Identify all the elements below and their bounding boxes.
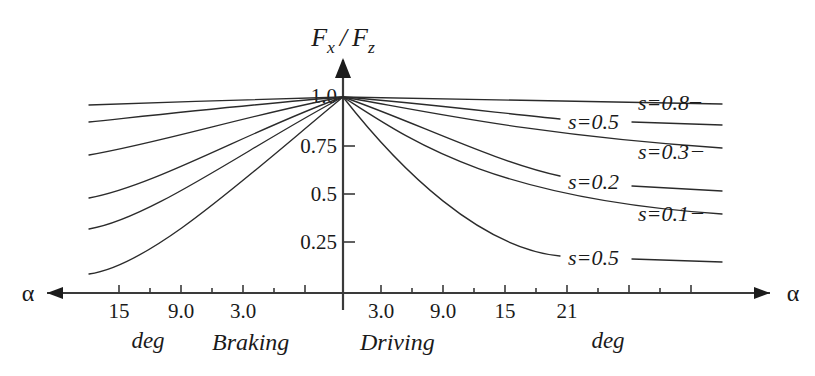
x-axis — [47, 287, 770, 299]
curves-driving — [343, 97, 722, 262]
y-axis — [335, 58, 351, 310]
xtick-label-right-15: 15 — [495, 299, 516, 323]
series-label-s05-upper: s=0.5 — [568, 109, 619, 134]
series-label-s05-lower: s=0.5 — [568, 245, 619, 270]
ytick-label-0-25: 0.25 — [300, 230, 337, 254]
chart-page: 15 9.0 3.0 3.0 9.0 15 21 1.0 0.75 0.5 0.… — [0, 0, 815, 376]
series-label-s03-dash: – — [691, 137, 704, 162]
x-axis-right-arrow — [754, 287, 770, 299]
y-axis-arrow — [335, 58, 351, 78]
curve-right-s05-upper-b — [632, 122, 722, 125]
region-label-braking: Braking — [212, 329, 289, 355]
xtick-label-right-9: 9.0 — [430, 299, 456, 323]
curve-right-s05-lower-a — [343, 97, 560, 256]
x-axis-unit-left: deg — [131, 328, 164, 353]
series-label-s01: s=0.1 — [638, 201, 689, 226]
y-axis-title-denominator-sub: z — [367, 37, 375, 57]
y-axis-ticks — [343, 146, 355, 242]
fx-fz-slip-angle-chart: 15 9.0 3.0 3.0 9.0 15 21 1.0 0.75 0.5 0.… — [0, 0, 815, 376]
series-label-s01-dash: – — [691, 199, 704, 224]
curve-left-1 — [89, 97, 343, 105]
ytick-label-0-5: 0.5 — [311, 182, 337, 206]
curve-right-s02-b — [632, 186, 722, 191]
y-axis-title-slash: / — [338, 23, 350, 52]
xtick-label-left-3: 3.0 — [230, 299, 256, 323]
x-axis-label-left-alpha: α — [22, 280, 35, 306]
x-axis-unit-right: deg — [591, 328, 624, 353]
series-label-s03: s=0.3 — [638, 139, 689, 164]
svg-text:Fx/Fz: Fx/Fz — [310, 23, 375, 57]
xtick-label-left-15: 15 — [109, 299, 130, 323]
xtick-label-right-21: 21 — [557, 299, 578, 323]
series-label-s02: s=0.2 — [568, 169, 619, 194]
curve-right-s05-lower-b — [632, 259, 722, 262]
y-axis-title-denominator: F — [351, 23, 369, 52]
x-axis-ticks — [119, 285, 691, 293]
ytick-label-0-75: 0.75 — [300, 134, 337, 158]
x-axis-left-arrow — [47, 287, 63, 299]
xtick-label-right-3: 3.0 — [368, 299, 394, 323]
series-label-s08: s=0.8 — [638, 90, 689, 115]
y-axis-title: Fx/Fz — [310, 23, 375, 57]
y-axis-title-numerator: F — [310, 23, 328, 52]
y-axis-title-numerator-sub: x — [326, 37, 335, 57]
x-axis-label-right-alpha: α — [787, 280, 800, 306]
series-label-s08-dash: – — [689, 88, 702, 113]
region-label-driving: Driving — [359, 329, 435, 355]
xtick-label-left-9: 9.0 — [168, 299, 194, 323]
curve-left-5 — [89, 97, 343, 229]
